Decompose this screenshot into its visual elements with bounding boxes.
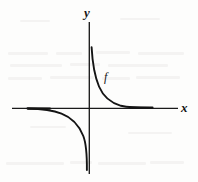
curve-branch-upper-right (92, 47, 152, 108)
curve-label-f: f (104, 71, 107, 83)
plot-canvas (0, 0, 198, 182)
graph-figure: y x f (0, 0, 198, 182)
curve-branch-lower-left (28, 109, 87, 170)
x-axis-label: x (181, 101, 188, 114)
y-axis-label: y (84, 6, 90, 19)
